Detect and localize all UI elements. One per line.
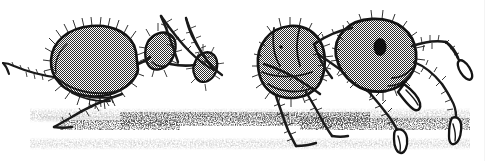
compound-eye — [374, 38, 387, 56]
antenna-second-club — [449, 117, 461, 144]
ant-illustration-figure — [0, 0, 490, 161]
foreleg-tarsal-claw — [394, 129, 407, 153]
ocellus — [279, 45, 283, 49]
mesosoma — [258, 26, 325, 98]
ant-illustration-canvas — [0, 0, 490, 161]
